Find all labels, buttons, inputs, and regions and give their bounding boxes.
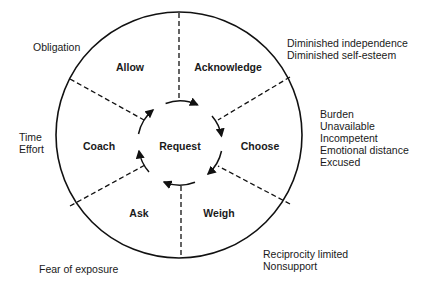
segment-weigh: Weigh <box>203 207 234 219</box>
center-label-request: Request <box>159 140 200 152</box>
segment-choose: Choose <box>241 140 280 152</box>
barriers-choose: Burden Unavailable Incompetent Emotional… <box>320 108 409 168</box>
segment-acknowledge: Acknowledge <box>194 61 262 73</box>
segment-coach: Coach <box>83 140 115 152</box>
barriers-coach: Time Effort <box>19 131 44 155</box>
segment-dividers <box>70 13 290 257</box>
barriers-weigh: Reciprocity limited Nonsupport <box>263 248 348 272</box>
barrier-fear-of-exposure: Fear of exposure <box>39 263 118 275</box>
segment-allow: Allow <box>116 61 144 73</box>
barriers-acknowledge: Diminished independence Diminished self-… <box>287 37 408 61</box>
barrier-obligation: Obligation <box>33 41 80 53</box>
segment-ask: Ask <box>129 207 148 219</box>
